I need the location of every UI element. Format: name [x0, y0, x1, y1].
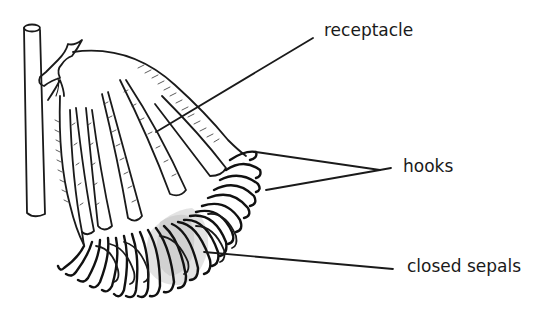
bract-tuft: [39, 40, 82, 100]
receptacle-body: [55, 51, 246, 245]
stalk: [24, 25, 45, 217]
hooks-leader-upper: [256, 152, 391, 170]
hooks-leader-lower: [266, 170, 380, 190]
receptacle-leader: [156, 38, 313, 132]
closed-sepals-leader: [204, 252, 393, 269]
label-closed-sepals: closed sepals: [407, 258, 521, 275]
label-receptacle: receptacle: [324, 22, 413, 39]
label-hooks: hooks: [403, 158, 453, 175]
burdock-flower-head-diagram: [0, 0, 549, 327]
